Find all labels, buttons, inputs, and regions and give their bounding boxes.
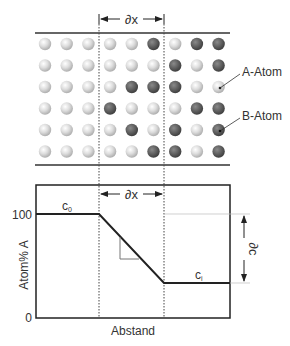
a-atom: [169, 102, 181, 114]
a-atom: [191, 145, 203, 157]
a-atom: [60, 81, 72, 93]
a-atom: [104, 59, 116, 71]
a-atom: [212, 81, 224, 93]
b-atom: [147, 145, 159, 157]
a-atom: [60, 124, 72, 136]
b-atom: [191, 38, 203, 50]
concentration-chart: ∂x c0 ci ∂c 100 0 Atom% A Abstand: [12, 185, 261, 338]
a-atom: [39, 124, 51, 136]
b-atom-leader: [220, 118, 240, 131]
b-atom: [212, 102, 224, 114]
b-atom: [104, 102, 116, 114]
y-tick-100: 100: [12, 208, 32, 222]
a-atom: [60, 145, 72, 157]
a-atom: [104, 81, 116, 93]
a-atom: [60, 102, 72, 114]
a-atom: [82, 81, 94, 93]
a-atom: [82, 59, 94, 71]
diffusion-diagram: ∂x A-Atom B-Atom ∂x c0 ci ∂c 100 0: [0, 0, 290, 346]
a-atom: [39, 102, 51, 114]
y-axis-label: Atom% A: [17, 240, 31, 289]
b-atom: [169, 81, 181, 93]
dx-label-top: ∂x: [125, 12, 138, 27]
ci-label: ci: [195, 268, 203, 282]
a-atom: [82, 124, 94, 136]
a-atom: [39, 81, 51, 93]
a-atom: [126, 145, 138, 157]
b-atom: [212, 59, 224, 71]
lattice-section: ∂x A-Atom B-Atom: [35, 12, 282, 165]
a-atom: [147, 124, 159, 136]
b-atom: [169, 124, 181, 136]
b-atom: [147, 81, 159, 93]
a-atom: [39, 38, 51, 50]
atom-grid: [39, 38, 225, 158]
a-atom: [126, 59, 138, 71]
b-atom: [212, 124, 224, 136]
a-atom: [126, 102, 138, 114]
b-atom: [126, 124, 138, 136]
a-atom: [169, 38, 181, 50]
a-atom: [82, 102, 94, 114]
b-atom: [126, 81, 138, 93]
a-atom: [104, 38, 116, 50]
a-atom: [104, 124, 116, 136]
a-atom: [147, 59, 159, 71]
c0-label: c0: [62, 199, 72, 213]
b-atom: [169, 145, 181, 157]
y-tick-0: 0: [25, 311, 32, 325]
a-atom: [82, 145, 94, 157]
x-axis-label: Abstand: [111, 324, 155, 338]
b-atom: [212, 145, 224, 157]
a-atom: [60, 59, 72, 71]
a-atom: [191, 59, 203, 71]
a-atom: [82, 38, 94, 50]
a-atom: [104, 145, 116, 157]
b-atom-label: B-Atom: [242, 109, 282, 123]
dx-label-chart: ∂x: [125, 187, 138, 202]
a-atom: [126, 38, 138, 50]
b-atom: [212, 38, 224, 50]
a-atom: [60, 38, 72, 50]
a-atom: [39, 145, 51, 157]
b-atom: [169, 59, 181, 71]
a-atom: [191, 81, 203, 93]
b-atom: [191, 102, 203, 114]
a-atom: [39, 59, 51, 71]
a-atom-label: A-Atom: [242, 65, 282, 79]
a-atom: [147, 102, 159, 114]
a-atom: [191, 124, 203, 136]
dc-label: ∂c: [246, 243, 261, 256]
a-atom-leader: [220, 74, 240, 88]
b-atom: [147, 38, 159, 50]
